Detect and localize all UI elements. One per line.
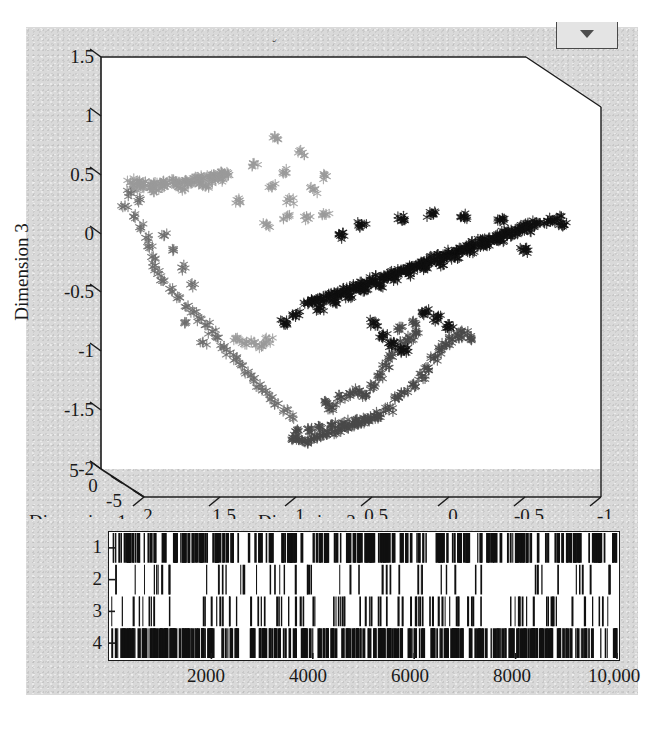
y-axis-label: Dimension 3: [11, 223, 33, 321]
axes-3d: 1.5 1 0.5 0 -0.5 -1 -1.5 -2 Dimension 3 …: [26, 27, 638, 519]
raster-panel-background: 1 2 3 4 2000 4000 6000 8000 10,000: [26, 519, 638, 695]
scanned-figure-page: Fuzzy c-means classification: [0, 0, 664, 732]
cluster-membership-raster: [108, 531, 620, 661]
raster-line-layer: [109, 532, 618, 659]
raster-y-ticks: 1 2 3 4: [72, 531, 102, 661]
axis-lines: [26, 27, 638, 519]
y-axis-ticks: 1.5 1 0.5 0 -0.5 -1 -1.5 -2: [36, 27, 94, 519]
